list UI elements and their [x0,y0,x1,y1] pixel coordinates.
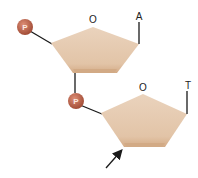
sugar-ring-2 [101,94,187,147]
phosphate-label-2: P [73,97,79,106]
dna-strand-diagram: P O A P O T [0,0,198,178]
nucleotide-1: P O A [17,11,143,73]
phosphate-bond-2 [80,105,102,114]
phosphate-label-1: P [22,23,28,32]
ring-oxygen-label-1: O [89,14,97,25]
nucleotide-2: P O T [68,80,191,147]
sugar-ring-2-edge [124,143,165,147]
phosphate-bond-1 [30,31,52,44]
base-label-1: A [136,11,143,22]
sugar-ring-1-edge [73,69,117,73]
pointer-arrow-icon [106,151,121,168]
sugar-ring-1 [51,27,139,73]
ring-oxygen-label-2: O [139,82,147,93]
base-label-2: T [185,80,191,91]
